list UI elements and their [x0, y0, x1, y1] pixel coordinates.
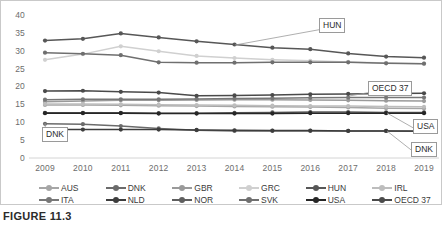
data-point — [119, 53, 123, 57]
callout-dnk-4: DNK — [42, 127, 68, 142]
legend-item-nor[interactable]: NOR — [172, 195, 239, 205]
data-point — [270, 93, 274, 97]
legend-marker-icon — [39, 184, 59, 192]
data-point — [81, 37, 85, 41]
data-point — [232, 56, 236, 60]
data-point — [43, 111, 47, 115]
data-point — [157, 60, 161, 64]
data-point — [346, 60, 350, 64]
legend-item-irl[interactable]: IRL — [372, 183, 439, 193]
legend-item-oecd-37[interactable]: OECD 37 — [372, 195, 439, 205]
data-point — [308, 129, 312, 133]
legend-marker-icon — [172, 196, 192, 204]
data-point — [270, 60, 274, 64]
line-chart-plot — [1, 1, 442, 206]
data-point — [422, 111, 426, 115]
legend-item-aus[interactable]: AUS — [39, 183, 106, 193]
legend-marker-icon — [39, 196, 59, 204]
legend-marker-icon — [239, 184, 259, 192]
legend-label: NOR — [194, 195, 213, 205]
legend-item-nld[interactable]: NLD — [106, 195, 173, 205]
data-point — [43, 58, 47, 62]
data-point — [81, 102, 85, 106]
callout-leader-line — [235, 29, 323, 45]
data-point — [346, 51, 350, 55]
data-point — [195, 111, 199, 115]
data-point — [43, 51, 47, 55]
y-tick-0: 0 — [3, 153, 25, 163]
legend-marker-icon — [306, 196, 326, 204]
data-point — [195, 54, 199, 58]
data-point — [270, 111, 274, 115]
legend-item-hun[interactable]: HUN — [306, 183, 373, 193]
data-point — [270, 104, 274, 108]
chart-legend: AUSDNKGBRGRCHUNIRL ITANLDNORSVKUSAOECD 3… — [27, 182, 439, 206]
data-point — [119, 31, 123, 35]
callout-oecd-37-1: OECD 37 — [368, 81, 412, 96]
data-point — [308, 92, 312, 96]
legend-label: USA — [328, 195, 345, 205]
data-point — [346, 92, 350, 96]
legend-label: HUN — [328, 183, 346, 193]
legend-item-grc[interactable]: GRC — [239, 183, 306, 193]
data-point — [81, 127, 85, 131]
data-point — [308, 60, 312, 64]
data-point — [43, 102, 47, 106]
legend-marker-icon — [106, 184, 126, 192]
x-tick-2012: 2012 — [140, 163, 178, 173]
y-tick-5: 5 — [3, 135, 25, 145]
data-point — [157, 103, 161, 107]
data-point — [422, 62, 426, 66]
legend-label: OECD 37 — [394, 195, 430, 205]
data-point — [232, 111, 236, 115]
data-point — [119, 44, 123, 48]
legend-label: NLD — [128, 195, 145, 205]
legend-item-usa[interactable]: USA — [306, 195, 373, 205]
data-point — [346, 111, 350, 115]
data-point — [232, 103, 236, 107]
legend-item-svk[interactable]: SVK — [239, 195, 306, 205]
data-point — [232, 128, 236, 132]
data-point — [119, 102, 123, 106]
legend-item-ita[interactable]: ITA — [39, 195, 106, 205]
data-point — [81, 97, 85, 101]
legend-marker-icon — [239, 196, 259, 204]
data-point — [422, 56, 426, 60]
data-point — [43, 38, 47, 42]
y-tick-35: 35 — [3, 28, 25, 38]
callout-dnk-3: DNK — [411, 142, 437, 157]
y-tick-25: 25 — [3, 64, 25, 74]
legend-item-gbr[interactable]: GBR — [172, 183, 239, 193]
data-point — [308, 111, 312, 115]
legend-marker-icon — [372, 196, 392, 204]
data-point — [157, 49, 161, 53]
legend-row-2: ITANLDNORSVKUSAOECD 37 — [27, 194, 439, 206]
data-point — [157, 97, 161, 101]
data-point — [308, 104, 312, 108]
data-point — [195, 94, 199, 98]
data-point — [384, 95, 388, 99]
callout-hun-0: HUN — [319, 18, 345, 33]
x-tick-2017: 2017 — [329, 163, 367, 173]
data-point — [384, 55, 388, 59]
y-tick-10: 10 — [3, 117, 25, 127]
chart-panel: 0510152025303540 20092010201120122013201… — [0, 0, 442, 205]
legend-item-dnk[interactable]: DNK — [106, 183, 173, 193]
data-point — [119, 127, 123, 131]
data-point — [308, 47, 312, 51]
data-point — [422, 91, 426, 95]
legend-label: GRC — [261, 183, 280, 193]
data-point — [81, 89, 85, 93]
legend-label: AUS — [61, 183, 78, 193]
data-point — [119, 90, 123, 94]
data-point — [195, 39, 199, 43]
data-point — [119, 97, 123, 101]
data-point — [232, 61, 236, 65]
data-point — [195, 61, 199, 65]
x-tick-2018: 2018 — [367, 163, 405, 173]
figure-caption: FIGURE 11.3 — [3, 210, 72, 222]
legend-row-1: AUSDNKGBRGRCHUNIRL — [27, 182, 439, 194]
data-point — [232, 93, 236, 97]
legend-label: ITA — [61, 195, 74, 205]
data-point — [81, 122, 85, 126]
